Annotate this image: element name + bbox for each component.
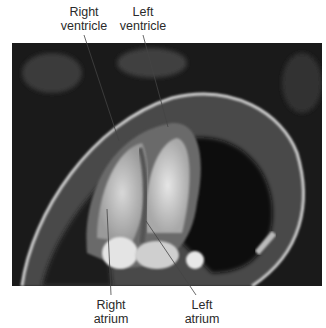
label-left-ventricle: Left ventricle (120, 5, 167, 33)
label-left-atrium: Left atrium (185, 298, 220, 326)
label-line: ventricle (120, 19, 167, 33)
label-right-atrium: Right atrium (94, 298, 129, 326)
label-line: Left (185, 298, 220, 312)
descending-aorta (186, 251, 204, 269)
background-tissue (282, 53, 322, 113)
label-line: Right (61, 5, 108, 19)
label-line: atrium (94, 312, 129, 326)
left-atrium-region (135, 241, 179, 269)
mri-scan-image (12, 43, 322, 286)
label-line: Left (120, 5, 167, 19)
label-line: atrium (185, 312, 220, 326)
background-tissue (117, 48, 187, 78)
label-line: ventricle (61, 19, 108, 33)
label-line: Right (94, 298, 129, 312)
background-tissue (22, 53, 82, 93)
right-atrium-region (102, 237, 138, 269)
mri-scan-drawing (12, 43, 322, 286)
label-right-ventricle: Right ventricle (61, 5, 108, 33)
